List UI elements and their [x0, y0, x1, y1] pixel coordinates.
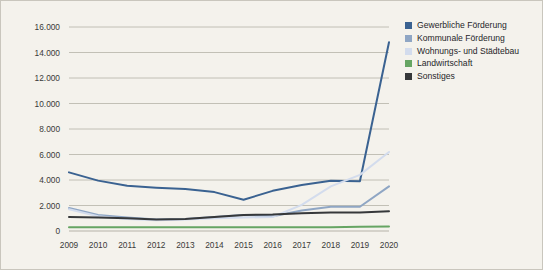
x-axis-tick-label: 2013: [176, 240, 195, 250]
plot-area: 02.0004.0006.0008.00010.00012.00014.0001…: [1, 1, 401, 270]
gridlines-group: [69, 27, 389, 231]
legend-swatch-icon: [405, 60, 412, 67]
y-axis-tick-label: 8.000: [39, 124, 60, 134]
x-axis-tick-label: 2014: [205, 240, 224, 250]
legend-item[interactable]: Sonstiges: [405, 72, 543, 81]
legend-item[interactable]: Kommunale Förderung: [405, 34, 543, 43]
legend-item-label: Gewerbliche Förderung: [417, 21, 507, 30]
y-axis-tick-label: 4.000: [39, 175, 60, 185]
x-axis-tick-label: 2020: [380, 240, 399, 250]
x-axis-tick-label: 2018: [322, 240, 341, 250]
legend-item[interactable]: Landwirtschaft: [405, 59, 543, 68]
legend-swatch-icon: [405, 73, 412, 80]
legend-item[interactable]: Wohnungs- und Städtebau: [405, 47, 543, 56]
series-line: [69, 152, 389, 220]
legend-item[interactable]: Gewerbliche Förderung: [405, 21, 543, 30]
series-line: [69, 227, 389, 228]
y-axis-tick-label: 2.000: [39, 201, 60, 211]
x-axis-tick-label: 2016: [263, 240, 282, 250]
y-axis-tick-label: 16.000: [35, 22, 61, 32]
legend-swatch-icon: [405, 22, 412, 29]
legend-swatch-icon: [405, 35, 412, 42]
x-axis-tick-labels: 2009201020112012201320142015201620172018…: [60, 240, 399, 250]
legend-item-label: Sonstiges: [417, 72, 455, 81]
data-series-group: [69, 42, 389, 227]
chart-frame: 02.0004.0006.0008.00010.00012.00014.0001…: [0, 0, 543, 270]
legend-item-label: Kommunale Förderung: [417, 34, 505, 43]
x-axis-tick-label: 2019: [351, 240, 370, 250]
x-axis-tick-label: 2009: [60, 240, 79, 250]
y-axis-tick-label: 0: [55, 226, 60, 236]
y-axis-tick-label: 12.000: [35, 73, 61, 83]
x-axis-tick-label: 2015: [234, 240, 253, 250]
legend-item-label: Wohnungs- und Städtebau: [417, 47, 519, 56]
y-axis-tick-label: 10.000: [35, 99, 61, 109]
series-line: [69, 186, 389, 219]
y-axis-tick-label: 6.000: [39, 150, 60, 160]
y-axis-tick-labels: 02.0004.0006.0008.00010.00012.00014.0001…: [35, 22, 61, 236]
legend-swatch-icon: [405, 48, 412, 55]
x-axis-tick-label: 2017: [292, 240, 311, 250]
series-line: [69, 42, 389, 199]
chart-legend: Gewerbliche FörderungKommunale Förderung…: [405, 21, 543, 85]
line-chart-svg: 02.0004.0006.0008.00010.00012.00014.0001…: [1, 1, 401, 270]
legend-item-label: Landwirtschaft: [417, 59, 472, 68]
x-axis-tick-label: 2012: [147, 240, 166, 250]
y-axis-tick-label: 14.000: [35, 48, 61, 58]
x-axis-tick-label: 2011: [118, 240, 136, 250]
x-axis-tick-label: 2010: [89, 240, 108, 250]
